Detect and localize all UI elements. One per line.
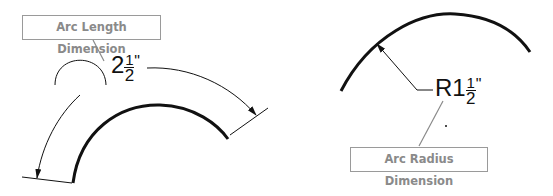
radius-leader xyxy=(377,44,433,90)
dimension-arc-right xyxy=(147,68,256,115)
callout-leader-right xyxy=(419,101,443,146)
fraction-numerator: 1 xyxy=(125,53,133,67)
dimension-fraction: 12 xyxy=(124,53,134,84)
arc-center-point xyxy=(445,125,447,127)
fraction-denominator: 2 xyxy=(125,68,134,84)
dimension-whole: 2 xyxy=(111,51,124,78)
arc-length-callout: Arc Length Dimension xyxy=(22,15,161,40)
radius-prefix: R1 xyxy=(435,74,466,101)
arc-radius-dimension-text: R112" xyxy=(435,76,481,107)
arc-radius-callout: Arc Radius Dimension xyxy=(350,147,488,172)
inch-mark: " xyxy=(476,76,482,93)
fraction-denominator: 2 xyxy=(466,91,475,107)
fraction-numerator: 1 xyxy=(467,76,475,90)
dimension-arc-left xyxy=(37,95,80,178)
extension-line-right xyxy=(230,108,268,135)
arc-length-symbol-icon xyxy=(55,60,106,85)
extension-line-left xyxy=(22,177,72,183)
inch-mark: " xyxy=(134,53,140,70)
dimension-fraction: 12 xyxy=(466,76,476,107)
arc-object-left xyxy=(73,105,228,183)
arc-length-dimension-text: 212" xyxy=(111,53,140,84)
